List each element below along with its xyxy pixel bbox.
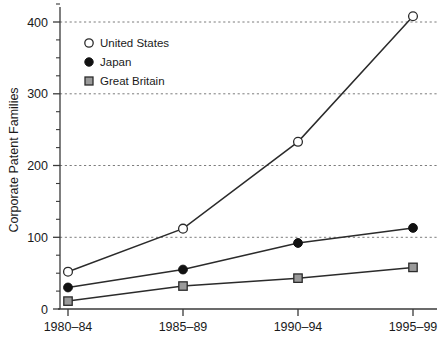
data-point-japan-1995-99: [409, 224, 418, 233]
chart-container: 400 300 200 100 0 1980–84 1985–89 1990–9…: [0, 0, 439, 338]
x-tick-label-3: 1995–99: [389, 320, 438, 334]
data-point-japan-1980-84: [64, 283, 73, 292]
legend-label-japan: Japan: [100, 56, 131, 68]
data-point-great-britain-1990-94: [294, 274, 302, 282]
x-tick-label-1: 1985–89: [159, 320, 208, 334]
y-tick-label-400: 400: [27, 16, 48, 30]
gray-square-marker-icon: [85, 77, 93, 85]
data-point-great-britain-1985-89: [179, 282, 187, 290]
y-tick-label-300: 300: [27, 87, 48, 101]
y-tick-label-200: 200: [27, 159, 48, 173]
x-tick-label-2: 1990–94: [274, 320, 323, 334]
filled-circle-marker-icon: [85, 58, 93, 66]
data-point-great-britain-1995-99: [409, 263, 417, 271]
data-point-united-states-1995-99: [409, 12, 418, 21]
data-point-great-britain-1980-84: [64, 297, 72, 305]
line-chart: 400 300 200 100 0 1980–84 1985–89 1990–9…: [0, 0, 439, 338]
data-point-japan-1990-94: [294, 239, 303, 248]
data-point-united-states-1985-89: [179, 224, 188, 233]
data-point-united-states-1980-84: [64, 267, 73, 276]
y-axis-title: Corporate Patent Families: [7, 87, 21, 232]
open-circle-marker-icon: [85, 39, 93, 47]
data-point-japan-1985-89: [179, 265, 188, 274]
y-tick-label-0: 0: [41, 303, 48, 317]
data-point-united-states-1990-94: [294, 137, 303, 146]
x-tick-label-0: 1980–84: [44, 320, 93, 334]
y-tick-label-100: 100: [27, 231, 48, 245]
legend-label-united-states: United States: [100, 37, 169, 49]
legend-label-great-britain: Great Britain: [100, 75, 165, 87]
